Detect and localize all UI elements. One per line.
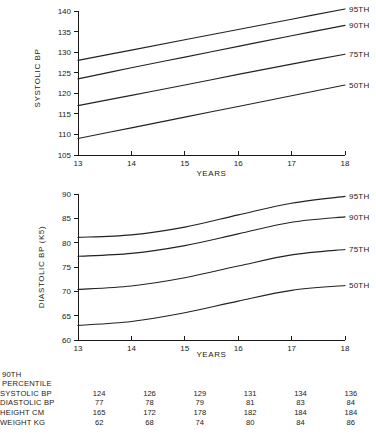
table-cell-value: 81 [225,398,275,408]
table-cell-value: 134 [275,389,325,399]
table-cell-value: 84 [275,418,325,428]
systolic-y-tick-label: 110 [58,130,71,139]
table-row-label: HEIGHT CM [0,408,74,418]
diastolic-x-axis-title: YEARS [196,350,226,358]
systolic-series-label-50th: 50TH [349,81,369,90]
table-cell-value: 62 [74,418,124,428]
table-row: DIASTOLIC BP777879818384 [0,398,376,408]
systolic-series-label-90th: 90TH [349,21,369,30]
table-row: WEIGHT KG626874808486 [0,418,376,428]
diastolic-series-50th [78,285,345,325]
systolic-series-label-75th: 75TH [349,50,369,59]
systolic-y-tick-label: 130 [58,48,72,57]
systolic-y-tick-label: 140 [58,7,72,16]
percentile-data-table: 90TH PERCENTILE SYSTOLIC BP1241261291311… [0,370,376,427]
diastolic-bp-chart: 60657075808590131415161718YEARSDIASTOLIC… [0,180,376,358]
table-cell-value: 79 [175,398,225,408]
systolic-y-tick-label: 135 [58,28,72,37]
diastolic-series-95th [78,196,345,237]
systolic-y-axis-title: SYSTOLIC BP [33,49,42,108]
systolic-x-tick-label: 17 [287,159,296,168]
table-row-label: DIASTOLIC BP [0,398,74,408]
table-row: HEIGHT CM165172178182184184 [0,408,376,418]
diastolic-y-axis-title: DIASTOLIC BP (K5) [37,226,46,308]
table-cell-value: 172 [124,408,174,418]
systolic-series-50th [78,85,345,138]
diastolic-x-tick-label: 16 [234,344,243,353]
systolic-series-label-95th: 95TH [349,5,369,14]
systolic-x-tick-label: 16 [234,159,243,168]
systolic-x-tick-label: 18 [341,159,350,168]
diastolic-x-tick-label: 17 [287,344,296,353]
table-cell-value: 184 [275,408,325,418]
diastolic-x-tick-label: 13 [74,344,83,353]
diastolic-x-tick-label: 14 [127,344,136,353]
diastolic-series-label-90th: 90TH [349,213,369,222]
blood-pressure-percentile-figure: 105110115120125130135140131415161718YEAR… [0,0,376,438]
diastolic-y-tick-label: 75 [62,263,71,272]
diastolic-series-90th [78,217,345,256]
systolic-series-95th [78,9,345,60]
table-row: SYSTOLIC BP124126129131134136 [0,389,376,399]
systolic-x-tick-label: 13 [74,159,83,168]
table-cell-value: 184 [326,408,376,418]
table-cell-value: 86 [326,418,376,428]
systolic-y-tick-label: 120 [58,89,72,98]
diastolic-y-tick-label: 85 [62,214,71,223]
table-cell-value: 131 [225,389,275,399]
diastolic-x-tick-label: 15 [180,344,189,353]
diastolic-y-tick-label: 70 [62,287,71,296]
diastolic-series-label-75th: 75TH [349,245,369,254]
diastolic-y-tick-label: 60 [62,336,71,345]
systolic-x-axis-title: YEARS [196,169,226,178]
diastolic-bp-plot: 60657075808590131415161718YEARSDIASTOLIC… [0,180,376,358]
systolic-y-tick-label: 105 [58,151,72,160]
table-cell-value: 77 [74,398,124,408]
percentile-values-table: SYSTOLIC BP124126129131134136DIASTOLIC B… [0,389,376,427]
table-cell-value: 129 [175,389,225,399]
systolic-y-tick-label: 125 [58,69,72,78]
systolic-series-75th [78,54,345,105]
diastolic-series-75th [78,249,345,289]
table-cell-value: 182 [225,408,275,418]
table-cell-value: 78 [124,398,174,408]
diastolic-series-label-50th: 50TH [349,281,369,290]
systolic-x-tick-label: 15 [180,159,189,168]
table-cell-value: 165 [74,408,124,418]
systolic-bp-chart: 105110115120125130135140131415161718YEAR… [0,0,376,180]
table-row-label: SYSTOLIC BP [0,389,74,399]
table-cell-value: 124 [74,389,124,399]
diastolic-series-label-95th: 95TH [349,192,369,201]
table-cell-value: 178 [175,408,225,418]
table-cell-value: 84 [326,398,376,408]
table-cell-value: 83 [275,398,325,408]
table-cell-value: 80 [225,418,275,428]
diastolic-y-tick-label: 90 [62,190,71,199]
table-row-label: WEIGHT KG [0,418,74,428]
systolic-bp-plot: 105110115120125130135140131415161718YEAR… [0,0,376,180]
table-heading-line2: PERCENTILE [0,379,376,388]
table-cell-value: 74 [175,418,225,428]
diastolic-y-tick-label: 80 [62,239,71,248]
systolic-y-tick-label: 115 [58,110,71,119]
diastolic-x-tick-label: 18 [341,344,350,353]
table-cell-value: 68 [124,418,174,428]
systolic-x-tick-label: 14 [127,159,136,168]
table-cell-value: 126 [124,389,174,399]
table-heading-line1: 90TH [0,370,376,379]
table-cell-value: 136 [326,389,376,399]
diastolic-y-tick-label: 65 [62,312,71,321]
